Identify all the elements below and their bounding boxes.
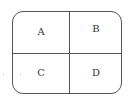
cell-b-label: B	[70, 23, 122, 35]
horizontal-divider	[13, 53, 121, 54]
cell-d-label: D	[70, 67, 122, 79]
cell-c-label: C	[13, 67, 69, 79]
cell-a-label: A	[13, 26, 69, 38]
stray-dot	[20, 74, 21, 75]
stray-dot	[3, 74, 4, 75]
quadrant-box: A B C D	[12, 11, 122, 94]
